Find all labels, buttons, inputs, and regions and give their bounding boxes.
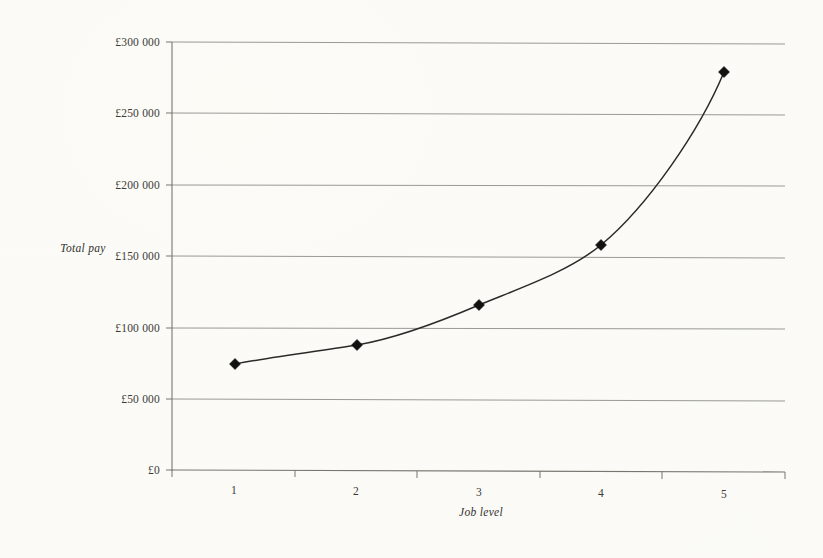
y-tick-label-100000: £100 000 <box>115 322 160 334</box>
chart-container: £300 000 £250 000 £200 000 £150 000 £100… <box>0 0 823 558</box>
gridline-200000 <box>172 185 785 186</box>
y-tick-label-150000: £150 000 <box>115 250 160 262</box>
y-tick-label-200000: £200 000 <box>115 179 160 191</box>
y-axis-tickmarks <box>166 42 172 470</box>
x-tick-label-1: 1 <box>231 484 237 496</box>
data-point-marker-3 <box>474 300 485 311</box>
y-tick-label-50000: £50 000 <box>121 393 160 405</box>
x-tick-label-4: 4 <box>598 487 604 499</box>
y-tick-label-250000: £250 000 <box>115 107 160 119</box>
data-point-marker-2 <box>352 340 363 351</box>
y-axis-title: Total pay <box>60 242 106 255</box>
x-tick-label-3: 3 <box>476 486 482 498</box>
y-tick-label-0: £0 <box>148 464 160 476</box>
gridline-300000 <box>172 42 785 44</box>
data-point-marker-1 <box>230 359 241 370</box>
x-tick-label-5: 5 <box>721 488 727 500</box>
line-chart-plot: £300 000 £250 000 £200 000 £150 000 £100… <box>0 0 823 558</box>
data-point-marker-5 <box>719 67 730 78</box>
data-point-markers <box>230 67 730 370</box>
gridline-100000 <box>172 328 785 329</box>
x-axis-line <box>172 470 785 472</box>
gridline-150000 <box>172 256 785 258</box>
gridlines <box>172 42 785 401</box>
gridline-250000 <box>172 113 785 115</box>
gridline-50000 <box>172 399 785 401</box>
y-tick-label-300000: £300 000 <box>115 36 160 48</box>
x-axis-title: Job level <box>459 506 503 518</box>
x-tick-label-2: 2 <box>353 485 359 497</box>
data-line-total-pay <box>235 72 724 364</box>
